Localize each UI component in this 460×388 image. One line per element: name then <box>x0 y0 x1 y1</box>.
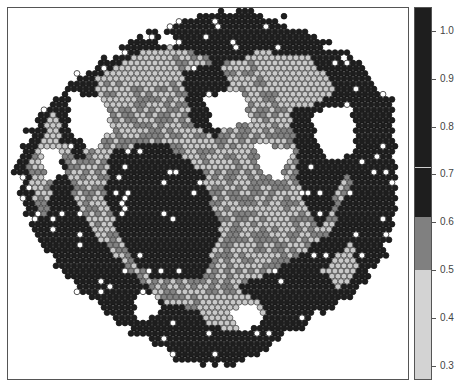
tissue-spot <box>260 341 266 347</box>
tissue-spot <box>164 29 170 35</box>
tissue-spot <box>107 211 113 217</box>
tissue-spot <box>197 13 203 19</box>
tissue-spot <box>203 180 209 186</box>
tissue-spot <box>356 227 362 233</box>
tissue-spot <box>173 315 179 321</box>
tissue-spot <box>128 320 134 326</box>
tissue-spot <box>248 123 254 129</box>
tissue-spot <box>203 242 209 248</box>
tissue-spot <box>215 294 221 300</box>
tissue-spot <box>194 81 200 87</box>
tissue-spot <box>350 195 356 201</box>
tissue-spot <box>74 71 80 77</box>
tissue-spot <box>227 336 233 342</box>
tissue-spot <box>308 268 314 274</box>
tissue-spot <box>284 237 290 243</box>
tissue-spot <box>359 273 365 279</box>
tissue-spot <box>257 284 263 290</box>
tissue-spot <box>95 253 101 259</box>
tissue-spot <box>341 159 347 165</box>
tissue-spot <box>35 190 41 196</box>
tissue-spot <box>380 237 386 243</box>
tissue-spot <box>344 185 350 191</box>
tissue-spot <box>143 159 149 165</box>
tissue-spot <box>308 175 314 181</box>
tissue-spot <box>308 60 314 66</box>
tissue-spot <box>59 253 65 259</box>
tissue-spot <box>152 60 158 66</box>
tissue-spot <box>227 13 233 19</box>
tissue-spot <box>362 154 368 160</box>
tissue-spot <box>251 294 257 300</box>
tissue-spot <box>350 227 356 233</box>
tissue-spot <box>173 357 179 363</box>
tissue-spot <box>242 50 248 56</box>
tissue-spot <box>236 133 242 139</box>
tissue-spot <box>161 86 167 92</box>
tissue-spot <box>221 55 227 61</box>
tissue-spot <box>101 169 107 175</box>
tissue-spot <box>233 149 239 155</box>
tissue-spot <box>341 211 347 217</box>
tissue-spot <box>212 154 218 160</box>
tissue-spot <box>131 315 137 321</box>
tissue-spot <box>110 216 116 222</box>
tissue-spot <box>266 206 272 212</box>
tissue-spot <box>281 294 287 300</box>
tissue-spot <box>290 81 296 87</box>
tissue-spot <box>182 289 188 295</box>
tissue-spot <box>155 107 161 113</box>
tissue-spot <box>350 289 356 295</box>
tissue-spot <box>26 154 32 160</box>
tissue-spot <box>248 19 254 25</box>
tissue-spot <box>215 284 221 290</box>
tissue-spot <box>269 34 275 40</box>
tissue-spot <box>164 60 170 66</box>
tissue-spot <box>158 123 164 129</box>
tissue-spot <box>143 97 149 103</box>
tissue-spot <box>122 112 128 118</box>
tissue-spot <box>371 232 377 238</box>
tissue-spot <box>185 357 191 363</box>
tissue-spot <box>308 310 314 316</box>
tissue-spot <box>134 112 140 118</box>
tissue-spot <box>131 273 137 279</box>
tissue-spot <box>254 112 260 118</box>
tissue-spot <box>140 175 146 181</box>
tissue-spot <box>59 128 65 134</box>
tissue-spot <box>266 133 272 139</box>
tissue-spot <box>32 133 38 139</box>
tissue-spot <box>38 154 44 160</box>
tissue-spot <box>107 97 113 103</box>
tissue-spot <box>305 138 311 144</box>
tissue-spot <box>245 128 251 134</box>
tissue-spot <box>377 211 383 217</box>
tissue-spot <box>380 175 386 181</box>
tissue-spot <box>176 258 182 264</box>
tissue-spot <box>89 201 95 207</box>
tissue-spot <box>341 221 347 227</box>
tissue-spot <box>23 201 29 207</box>
tissue-spot <box>284 123 290 129</box>
tissue-spot <box>260 258 266 264</box>
tissue-spot <box>377 128 383 134</box>
tissue-spot <box>182 279 188 285</box>
tissue-spot <box>308 133 314 139</box>
tissue-spot <box>347 97 353 103</box>
tissue-spot <box>239 138 245 144</box>
tissue-spot <box>332 195 338 201</box>
tissue-spot <box>206 299 212 305</box>
tissue-spot <box>305 190 311 196</box>
tissue-spot <box>185 325 191 331</box>
tissue-spot <box>62 164 68 170</box>
tissue-spot <box>167 284 173 290</box>
tissue-spot <box>125 294 131 300</box>
colorbar-tick-label: 0.9 <box>440 74 454 84</box>
tissue-spot <box>251 242 257 248</box>
tissue-spot <box>377 117 383 123</box>
tissue-spot <box>338 195 344 201</box>
tissue-spot <box>248 331 254 337</box>
tissue-spot <box>134 320 140 326</box>
tissue-spot <box>68 206 74 212</box>
tissue-spot <box>278 331 284 337</box>
